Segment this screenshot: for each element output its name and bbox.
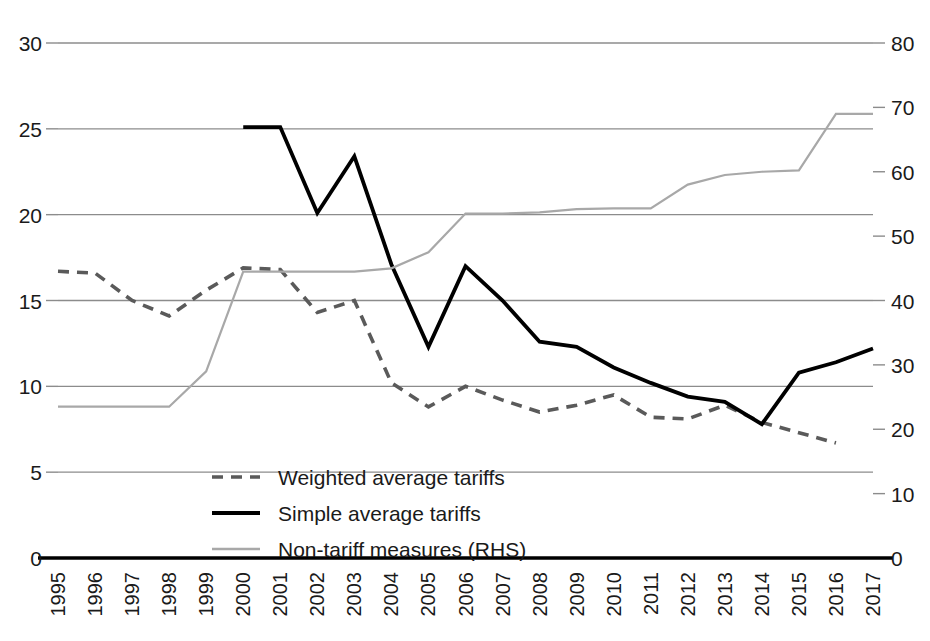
x-tick-2005: 2005: [417, 572, 439, 617]
right-tick-60: 60: [891, 161, 914, 184]
x-tick-1997: 1997: [121, 572, 143, 617]
right-tick-70: 70: [891, 96, 914, 119]
x-tick-2007: 2007: [492, 572, 514, 617]
x-tick-1996: 1996: [84, 572, 106, 617]
x-tick-1998: 1998: [158, 572, 180, 617]
x-tick-2000: 2000: [232, 572, 254, 617]
x-tick-2008: 2008: [529, 572, 551, 617]
x-axis-tick-labels: 1995199619971998199920002001200220032004…: [47, 572, 884, 617]
x-tick-2010: 2010: [603, 572, 625, 617]
x-tick-2003: 2003: [343, 572, 365, 617]
x-tick-1995: 1995: [47, 572, 69, 617]
legend-label-2: Non-tariff measures (RHS): [278, 538, 526, 561]
chart-container: 051015202530 01020304050607080 199519961…: [0, 0, 930, 641]
right-tick-80: 80: [891, 32, 914, 55]
right-tick-30: 30: [891, 354, 914, 377]
left-tick-15: 15: [19, 290, 42, 313]
x-tick-2002: 2002: [306, 572, 328, 617]
x-tick-2001: 2001: [269, 572, 291, 617]
x-tick-2013: 2013: [714, 572, 736, 617]
left-tick-25: 25: [19, 118, 42, 141]
left-tick-0: 0: [30, 547, 42, 570]
right-tick-50: 50: [891, 225, 914, 248]
legend-label-1: Simple average tariffs: [278, 502, 481, 525]
legend-label-0: Weighted average tariffs: [278, 466, 505, 489]
left-tick-5: 5: [30, 461, 42, 484]
tariffs-and-ntm-line-chart: 051015202530 01020304050607080 199519961…: [0, 0, 930, 641]
left-tick-20: 20: [19, 204, 42, 227]
x-tick-2004: 2004: [380, 572, 402, 617]
x-tick-2012: 2012: [677, 572, 699, 617]
right-tick-10: 10: [891, 483, 914, 506]
x-tick-2009: 2009: [566, 572, 588, 617]
x-tick-1999: 1999: [195, 572, 217, 617]
right-tick-40: 40: [891, 290, 914, 313]
x-tick-2015: 2015: [788, 572, 810, 617]
right-tick-20: 20: [891, 418, 914, 441]
x-tick-2016: 2016: [825, 572, 847, 617]
x-tick-2017: 2017: [862, 572, 884, 617]
left-tick-30: 30: [19, 32, 42, 55]
x-tick-2011: 2011: [640, 572, 662, 615]
left-tick-10: 10: [19, 375, 42, 398]
x-tick-2014: 2014: [751, 572, 773, 617]
right-tick-0: 0: [891, 547, 903, 570]
x-tick-2006: 2006: [455, 572, 477, 617]
